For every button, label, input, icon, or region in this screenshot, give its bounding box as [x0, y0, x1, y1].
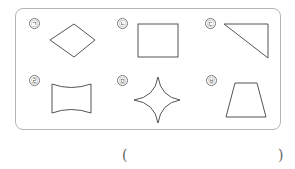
- answer-close-paren: ): [278, 147, 283, 163]
- trapezoid-shape: [0, 0, 295, 169]
- answer-open-paren: (: [122, 147, 127, 163]
